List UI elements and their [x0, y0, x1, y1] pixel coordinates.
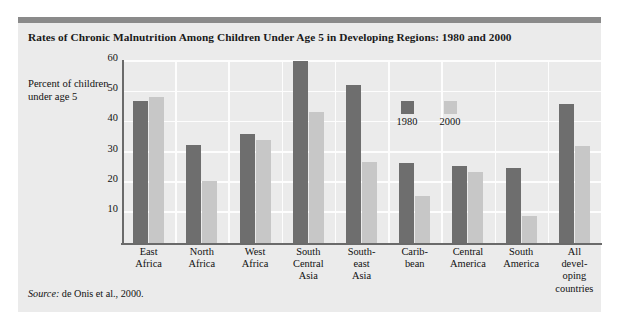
x-axis-label-line: Central [282, 258, 335, 270]
x-axis-label-line: Central [441, 246, 494, 258]
x-axis-label-line: Carib- [388, 246, 441, 258]
bar-1980 [240, 134, 255, 243]
x-axis-label-line: countries [548, 283, 601, 295]
chart-figure: Rates of Chronic Malnutrition Among Chil… [0, 0, 620, 329]
x-axis-category-label: South-eastAsia [335, 246, 388, 283]
bar-group [175, 62, 228, 243]
x-axis-category-label: SouthAmerica [495, 246, 548, 270]
legend-label-1980: 1980 [390, 116, 424, 127]
x-axis-label-line: devel- [548, 258, 601, 270]
bar-1980 [399, 163, 414, 243]
x-axis-label-line: Africa [122, 258, 175, 270]
x-axis-label-line: America [495, 258, 548, 270]
x-axis-category-label: SouthCentralAsia [282, 246, 335, 283]
x-axis-category-label: Carib-bean [388, 246, 441, 270]
x-axis-label-line: South- [335, 246, 388, 258]
bar-group [495, 62, 548, 243]
source-value: de Onis et al., 2000. [59, 288, 143, 299]
x-axis-label-line: East [122, 246, 175, 258]
y-axis-tick-label: 10 [108, 202, 118, 213]
x-axis-label-line: All [548, 246, 601, 258]
bar-1980 [133, 101, 148, 243]
bar-1980 [506, 168, 521, 243]
x-axis-label-line: Africa [228, 258, 281, 270]
x-axis-label-line: Asia [282, 270, 335, 282]
legend-item-1980: 1980 [390, 101, 424, 127]
x-axis-label-line: America [441, 258, 494, 270]
y-axis-tick-label: 60 [108, 52, 118, 63]
y-axis-tick-label: 40 [108, 112, 118, 123]
bar-2000 [575, 146, 590, 243]
legend-swatch-2000 [444, 101, 457, 114]
x-axis-category-label: CentralAmerica [441, 246, 494, 270]
x-axis-label-line: North [175, 246, 228, 258]
chart-panel: Rates of Chronic Malnutrition Among Chil… [18, 23, 601, 312]
bar-1980 [293, 61, 308, 244]
source-label: Source: [28, 288, 59, 299]
bar-2000 [202, 181, 217, 243]
x-axis-label-line: east [335, 258, 388, 270]
x-axis-label-line: Asia [335, 270, 388, 282]
bar-group [228, 62, 281, 243]
bar-2000 [468, 172, 483, 243]
source-note: Source: de Onis et al., 2000. [28, 288, 144, 299]
bar-2000 [149, 97, 164, 243]
x-axis-category-label: WestAfrica [228, 246, 281, 270]
bar-2000 [309, 112, 324, 243]
bar-group [548, 62, 601, 243]
bar-2000 [256, 140, 271, 243]
chart-title: Rates of Chronic Malnutrition Among Chil… [28, 31, 593, 43]
plot-area: 102030405060EastAfricaNorthAfricaWestAfr… [122, 62, 601, 243]
bar-2000 [362, 162, 377, 243]
bar-1980 [559, 104, 574, 243]
bar-group [122, 62, 175, 243]
x-axis-category-label: Alldevel-opingcountries [548, 246, 601, 295]
bar-1980 [452, 166, 467, 243]
bar-2000 [522, 216, 537, 243]
bar-group [388, 62, 441, 243]
bar-group [335, 62, 388, 243]
bar-group [441, 62, 494, 243]
x-axis-category-label: EastAfrica [122, 246, 175, 270]
bar-1980 [346, 85, 361, 243]
x-axis-line [121, 243, 602, 245]
x-axis-label-line: bean [388, 258, 441, 270]
legend-label-2000: 2000 [433, 116, 467, 127]
x-axis-label-line: South [495, 246, 548, 258]
y-axis-tick-label: 30 [108, 142, 118, 153]
legend-item-2000: 2000 [433, 101, 467, 127]
x-axis-label-line: West [228, 246, 281, 258]
y-axis-tick-label: 20 [108, 172, 118, 183]
x-axis-category-label: NorthAfrica [175, 246, 228, 270]
x-axis-label-line: Africa [175, 258, 228, 270]
bar-2000 [415, 196, 430, 243]
x-axis-label-line: South [282, 246, 335, 258]
y-axis-tick-label: 50 [108, 82, 118, 93]
bar-1980 [186, 145, 201, 243]
y-axis-title: Percent of children under age 5 [28, 78, 113, 103]
bar-group [282, 62, 335, 243]
legend-swatch-1980 [401, 101, 414, 114]
x-axis-label-line: oping [548, 270, 601, 282]
